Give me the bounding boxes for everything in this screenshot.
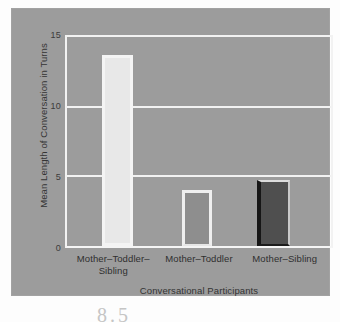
- bar-mother-sibling: [257, 180, 289, 246]
- y-tick-5: 5: [56, 172, 61, 182]
- x-tick-line-1: Mother–Sibling: [231, 253, 338, 265]
- x-axis-title: Conversational Participants: [65, 285, 333, 296]
- x-tick-mother-sibling: Mother–Sibling: [231, 253, 338, 265]
- y-axis-title: Mean Length of Conversation in Turns: [38, 31, 49, 221]
- bar-mother-toddler-sibling: [102, 55, 133, 246]
- chart-panel: 0 5 10 15 Mean Length of Conversation in…: [11, 8, 330, 296]
- figure-page: 0 5 10 15 Mean Length of Conversation in…: [0, 0, 340, 322]
- plot-area: [65, 35, 333, 248]
- x-tick-line-2: Sibling: [60, 265, 167, 277]
- caption-fragment: 8.5: [97, 304, 217, 322]
- bar-mother-toddler: [182, 190, 212, 246]
- y-tick-0: 0: [56, 243, 61, 253]
- y-tick-15: 15: [51, 30, 61, 40]
- x-axis-ticks: Mother–Toddler– Sibling Mother–Toddler M…: [65, 253, 333, 287]
- y-tick-10: 10: [51, 101, 61, 111]
